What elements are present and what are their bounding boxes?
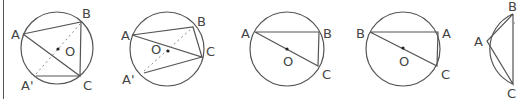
label-a: A [442,26,451,41]
label-c: C [507,86,516,99]
label-b: B [82,6,91,21]
label-o: O [399,54,409,69]
label-a-prime: A' [122,72,134,87]
label-a: A [11,27,20,42]
center-point [285,47,288,50]
label-a-prime: A' [21,78,33,93]
label-o: O [151,42,161,57]
center-point [56,47,59,50]
circle-diagrams: A B C A' O A B C A' O A B C O B A C O [0,0,517,99]
label-o: O [283,54,293,69]
label-c: C [83,78,92,93]
triangle-abc [487,14,513,84]
figure-5: A B C [474,0,517,99]
figure-4: B A C O [356,12,451,86]
center-point [401,46,404,49]
figure-3: A B C O [241,12,332,86]
figure-2: A B C A' O [121,12,215,87]
label-a: A [121,28,130,43]
circle [130,12,204,86]
label-o: O [65,44,75,59]
label-c: C [322,67,331,82]
figure-1: A B C A' O [11,6,93,93]
label-c: C [441,67,450,82]
segment-a-prime-c [144,57,202,73]
arc [490,14,513,84]
center-point [166,49,169,52]
label-a: A [241,26,250,41]
label-b: B [323,26,332,41]
label-b: B [508,0,517,14]
label-c: C [206,44,215,59]
triangle-abc [132,27,202,57]
label-b: B [356,26,365,41]
label-a: A [474,34,483,49]
label-b: B [197,14,206,29]
